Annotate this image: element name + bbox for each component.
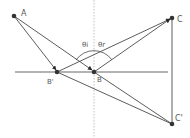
ray-b-to-c	[94, 19, 170, 72]
reflection-diagram: A B' B C C' θi θr	[0, 0, 190, 138]
label-cprime: C'	[175, 114, 183, 123]
ray-a-to-b	[14, 16, 92, 70]
label-bprime: B'	[47, 78, 54, 86]
label-b: B	[97, 76, 102, 84]
point-b	[92, 70, 97, 75]
ray-a-to-bprime	[14, 16, 56, 70]
point-a	[12, 14, 17, 19]
label-c: C	[177, 15, 183, 24]
point-cprime	[170, 122, 175, 127]
line-bprime-to-cprime	[57, 72, 172, 124]
label-theta-r: θr	[98, 41, 105, 49]
point-c	[170, 16, 175, 21]
point-bprime	[55, 70, 60, 75]
line-b-to-cprime	[94, 72, 172, 124]
label-theta-i: θi	[82, 41, 88, 49]
label-a: A	[21, 9, 27, 18]
ray-bprime-to-c	[57, 19, 170, 72]
